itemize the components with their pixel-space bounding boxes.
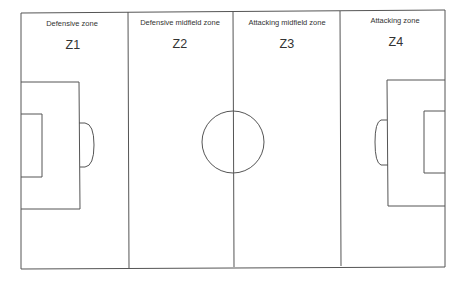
zone-code-z2: Z2 xyxy=(172,37,187,51)
left-penalty-arc xyxy=(79,123,94,167)
zone-code-z3: Z3 xyxy=(279,37,294,51)
right-goal-box xyxy=(424,111,445,173)
zone-divider-3 xyxy=(340,11,341,266)
left-goal-box xyxy=(21,114,42,177)
right-penalty-arc xyxy=(375,120,388,165)
zone-divider-1 xyxy=(128,12,129,268)
zone-code-z1: Z1 xyxy=(65,38,80,52)
zone-divider-2 xyxy=(233,11,234,267)
zone-title-z4: Attacking zone xyxy=(370,16,419,25)
zone-title-z3: Attacking midfield zone xyxy=(248,18,325,27)
zone-title-z1: Defensive zone xyxy=(46,19,98,28)
right-penalty-box xyxy=(387,80,445,206)
zone-title-z2: Defensive midfield zone xyxy=(140,18,220,27)
left-penalty-box xyxy=(21,82,80,209)
zone-code-z4: Z4 xyxy=(388,35,403,49)
